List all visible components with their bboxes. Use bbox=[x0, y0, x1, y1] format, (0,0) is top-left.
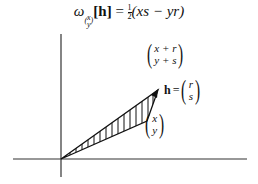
label-base-vector: ( xy ) bbox=[143, 110, 167, 138]
label-sum-vector: ( x + ry + s ) bbox=[145, 40, 186, 68]
label-h-vector: h = ( rs ) bbox=[164, 76, 202, 104]
vector-diagram bbox=[0, 0, 258, 184]
hatched-area bbox=[70, 80, 153, 170]
